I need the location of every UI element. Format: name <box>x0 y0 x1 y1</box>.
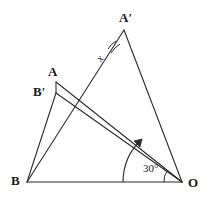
segment-o-b-prime <box>56 93 182 182</box>
segment-b-a-prime <box>27 30 124 182</box>
geometry-canvas <box>0 0 209 205</box>
angle-arc-small <box>164 171 167 182</box>
angle-label-30: 30° <box>143 163 158 174</box>
vertex-label-a: A <box>48 65 57 78</box>
vertex-label-b-prime: B′ <box>33 85 45 98</box>
geometry-figure: B O A′ A B′ x 30° <box>0 0 209 205</box>
vertex-label-b: B <box>11 174 20 187</box>
vertex-label-a-prime: A′ <box>119 11 132 24</box>
vertex-label-o: O <box>188 176 198 189</box>
segment-b-b-prime <box>27 93 56 182</box>
